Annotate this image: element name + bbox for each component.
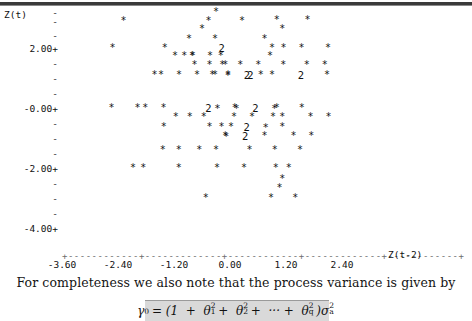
data-point-marker: * [290,131,296,141]
data-point-marker: * [279,24,285,34]
data-point-marker: * [269,70,275,80]
data-point-marker: * [187,112,193,122]
data-point-marker: * [181,51,187,61]
data-point-marker: * [297,145,303,155]
data-point-marker: * [304,15,310,25]
data-point-marker: * [325,43,331,53]
body-paragraph: For completeness we also note that the p… [0,275,472,290]
data-point-marker: * [199,24,205,34]
data-point-marker: * [196,145,202,155]
data-point-marker: * [203,193,209,203]
process-variance-formula: γ0 = (1 + θ21 + θ22 + ··· + θ2q )σ2a [137,304,337,318]
data-point-marker: * [267,51,273,61]
x-tick-label: -1.20 [160,259,189,270]
data-point-marker: * [213,7,219,17]
data-point-marker: * [280,60,286,70]
data-point-marker: * [140,163,146,173]
data-point-marker: * [241,163,247,173]
data-point-marker: * [209,70,215,80]
data-point-marker: * 2 [223,130,248,141]
data-point-marker: * [268,193,274,203]
data-point-marker: 2 [247,70,253,81]
data-point-marker: * [109,43,115,53]
data-point-marker: * [212,34,218,44]
data-point-marker: * [276,183,282,193]
data-point-marker: * 2 [225,70,250,81]
formula-highlight-box: γ0 = (1 + θ21 + θ22 + ··· + θ2q )σ2a [145,300,329,321]
data-point-marker: * [272,145,278,155]
data-point-marker: * [121,16,127,26]
data-point-marker: * [273,163,279,173]
data-point-marker: * [286,163,292,173]
data-point-marker: * [135,103,141,113]
data-point-marker: * [292,193,298,203]
data-point-marker: * [299,103,305,113]
x-tick-label: 2.40 [331,259,354,270]
data-point-marker: * [176,145,182,155]
data-point-marker: * [206,122,212,132]
data-point-marker: * [213,145,219,155]
data-point-marker: * [162,43,168,53]
scatter-points-layer: *************2** ****** ******* * *** **… [0,6,472,268]
x-tick-label: 0.00 [219,259,242,270]
page-top-rule [0,2,472,5]
data-point-marker: * [160,145,166,155]
data-point-marker: * [262,34,268,44]
data-point-marker: * * [142,103,166,113]
data-point-marker: * [270,112,276,122]
data-point-marker: * [108,103,114,113]
data-point-marker: * [324,70,330,80]
data-point-marker: * [279,122,285,132]
data-point-marker: * * [308,112,332,122]
data-point-marker: * [308,131,314,141]
data-point-marker: * [173,112,179,122]
x-axis-label: Z(t-2) [388,249,422,260]
data-point-marker: 2 [298,70,304,81]
character-scatter-plot: Z(t) 2.00+----0.00+----2.00+----4.00+---… [0,6,472,268]
data-point-marker: * [206,16,212,26]
data-point-marker: * [262,131,268,141]
x-tick-label: -3.60 [48,259,77,270]
data-point-marker: * [130,163,136,173]
x-tick-label: 1.20 [275,259,298,270]
data-point-marker: * [172,51,178,61]
data-point-marker: * [186,34,192,44]
data-point-marker: * [161,122,167,132]
data-point-marker: * [247,145,253,155]
data-point-marker: * * [280,43,304,53]
data-point-marker: * [239,16,245,26]
x-tick-label: -2.40 [104,259,133,270]
data-point-marker: * [258,70,264,80]
data-point-marker: * [151,70,157,80]
data-point-marker: * [176,163,182,173]
data-point-marker: * [214,163,220,173]
